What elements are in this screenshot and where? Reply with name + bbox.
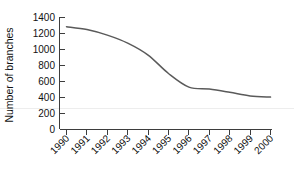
x-tick-label-group: 1990 1991 1992 1993 1994 1995 1996 1997 … <box>48 132 276 156</box>
y-axis-title: Number of branches <box>3 27 15 122</box>
y-tick-group <box>60 18 65 130</box>
chart-container: Number of branches 1400 1200 1000 800 60… <box>0 0 294 179</box>
x-tick-label-1990: 1990 <box>48 132 72 156</box>
x-tick-label-1994: 1994 <box>130 132 154 156</box>
x-tick-label-1998: 1998 <box>211 132 235 156</box>
x-tick-label-1996: 1996 <box>170 132 194 156</box>
x-tick-label-1999: 1999 <box>232 132 256 156</box>
y-tick-label-0: 0 <box>49 124 55 135</box>
y-tick-label-200: 200 <box>38 108 55 119</box>
y-tick-label-400: 400 <box>38 92 55 103</box>
y-axis-group: 1400 1200 1000 800 600 400 200 0 <box>33 12 65 135</box>
x-tick-label-1993: 1993 <box>109 132 133 156</box>
x-tick-label-1997: 1997 <box>191 132 215 156</box>
y-axis-title-group: Number of branches <box>3 27 15 122</box>
x-tick-label-1995: 1995 <box>150 132 174 156</box>
x-tick-label-1991: 1991 <box>68 132 92 156</box>
y-tick-label-1000: 1000 <box>33 44 56 55</box>
line-chart: Number of branches 1400 1200 1000 800 60… <box>0 0 294 179</box>
y-tick-label-600: 600 <box>38 76 55 87</box>
y-tick-label-1200: 1200 <box>33 28 56 39</box>
y-tick-label-group: 1400 1200 1000 800 600 400 200 0 <box>33 12 56 135</box>
x-axis-group: 1990 1991 1992 1993 1994 1995 1996 1997 … <box>48 130 276 157</box>
y-tick-label-800: 800 <box>38 60 55 71</box>
x-tick-group <box>67 130 271 135</box>
x-tick-label-1992: 1992 <box>89 132 113 156</box>
x-tick-label-2000: 2000 <box>252 132 276 156</box>
data-series-line <box>67 27 271 97</box>
y-tick-label-1400: 1400 <box>33 12 56 23</box>
